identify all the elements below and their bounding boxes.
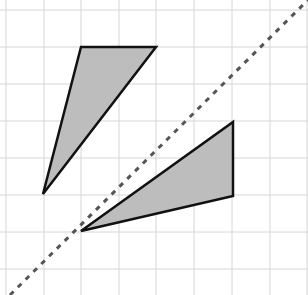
grid-diagram	[0, 0, 308, 295]
shapes	[43, 47, 233, 231]
reflected-triangle	[81, 122, 233, 231]
